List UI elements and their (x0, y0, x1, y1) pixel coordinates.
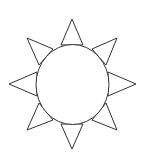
sun-ray-left (9, 72, 37, 96)
sun-ray-top (61, 19, 83, 45)
sun-icon-canvas (0, 0, 149, 162)
sun-ray-bottom (61, 124, 83, 149)
sun-icon (0, 0, 149, 162)
sun-disc (36, 45, 109, 125)
sun-ray-right (108, 72, 136, 96)
